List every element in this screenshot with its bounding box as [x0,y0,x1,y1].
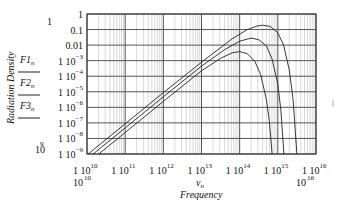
y-tick-label: 1 10−6 [58,99,83,113]
y-tick-label: 0.01 [66,40,84,51]
y-tick-label: 1 [78,9,83,20]
x-max-exp: 16 [307,174,315,182]
y-tick-label: 1 10−9 [58,146,83,160]
y-axis-label: Radiation Density [5,51,16,125]
y-tick-labels: 10.10.011 10−31 10−41 10−51 10−61 10−71 … [58,9,83,160]
x-max-base: 10 [296,177,306,188]
y-tick-label: 0.1 [71,25,84,36]
svg-text:F3n: F3n [19,100,35,113]
svg-text:F1n: F1n [19,54,35,67]
legend-item-f2: F2n [18,77,40,95]
minor-gridlines [98,14,314,154]
x-tick-label: 1 1015 [264,162,289,176]
legend-item-f1: F1n [18,54,40,72]
y-tick-label: 1 10−7 [58,115,83,129]
y-min-exp: 9 [40,140,44,148]
svg-text:F2n: F2n [19,77,35,90]
y-tick-label: 1 10−5 [58,84,83,98]
x-tick-labels: 1 10101 10111 10121 10131 10141 10151 10… [73,162,327,176]
x-tick-label: 1 1014 [226,162,251,176]
y-tick-label: 1 10−4 [58,68,83,82]
x-tick-label: 1 1016 [302,162,327,176]
radiation-density-chart: 10.10.011 10−31 10−41 10−51 10−61 10−71 … [0,0,345,204]
y-top-range-label: 1 [47,16,52,27]
x-tick-label: 1 1013 [188,162,213,176]
y-tick-label: 1 10−8 [58,130,83,144]
x-tick-label: 1 1012 [149,162,174,176]
x-axis-label: Frequency [179,189,223,200]
legend: F1n F2n F3n [18,54,40,118]
x-min-exp: 10 [84,174,92,182]
y-tick-label: 1 10−3 [58,53,83,67]
x-tick-label: 1 1011 [111,162,136,176]
x-min-base: 10 [73,177,83,188]
legend-item-f3: F3n [18,100,40,118]
